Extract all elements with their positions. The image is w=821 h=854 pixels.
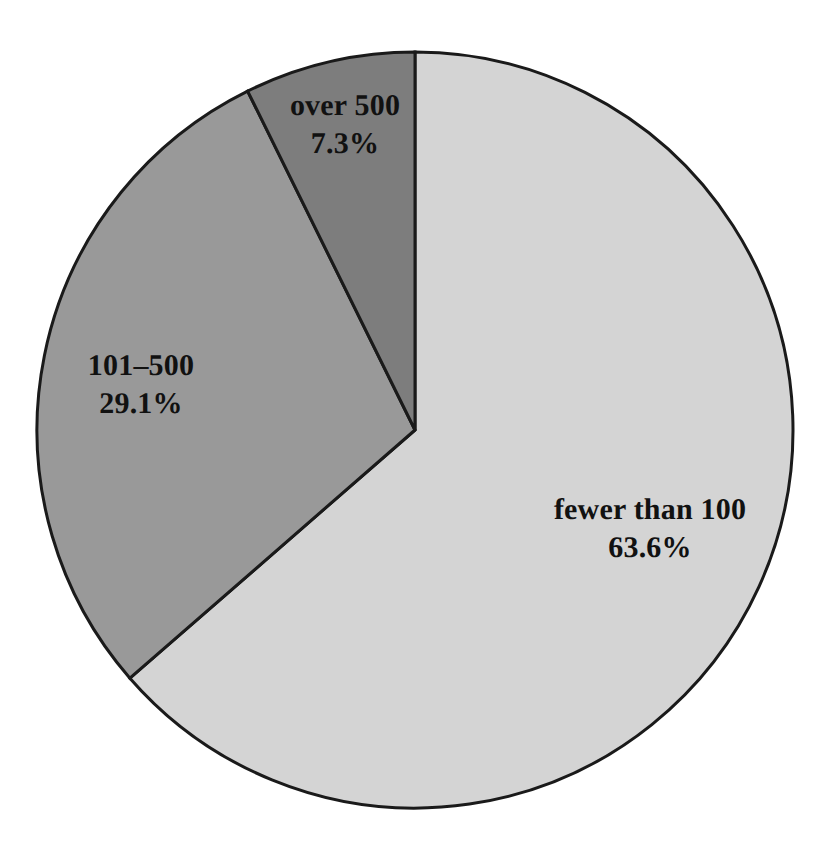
pie-slice-label-101-500: 101–500 29.1%: [88, 347, 194, 422]
pie-slice-label-percent: 7.3%: [290, 124, 400, 162]
pie-slice-label-name: fewer than 100: [554, 491, 746, 529]
pie-chart: fewer than 100 63.6% 101–500 29.1% over …: [0, 0, 821, 854]
pie-slice-label-name: 101–500: [88, 347, 194, 385]
pie-slice-label-percent: 29.1%: [88, 384, 194, 422]
pie-slice-label-percent: 63.6%: [554, 528, 746, 566]
pie-slice-label-fewer-than-100: fewer than 100 63.6%: [554, 491, 746, 566]
pie-chart-canvas: [0, 0, 821, 854]
pie-slice-label-name: over 500: [290, 87, 400, 125]
pie-slice-label-over-500: over 500 7.3%: [290, 87, 400, 162]
pie-slices-group: [37, 52, 793, 808]
